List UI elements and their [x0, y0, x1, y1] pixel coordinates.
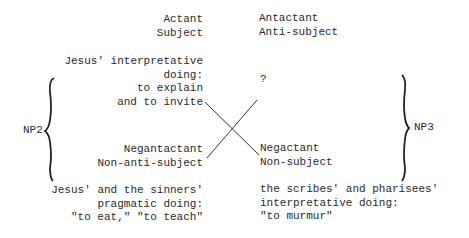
actant-label: Actant	[163, 13, 203, 27]
left-content-line: doing:	[163, 69, 203, 83]
left-bottom-line: Jesus' and the sinners'	[51, 184, 203, 198]
right-bottom-line: the scribes' and pharisees'	[260, 183, 438, 197]
anti-subject-label: Anti-subject	[259, 26, 338, 40]
left-content-line: to explain	[137, 82, 203, 96]
left-content-line: Jesus' interpretative	[64, 55, 203, 69]
right-bottom-line: "to murmur"	[260, 210, 333, 224]
np3-label: NP3	[414, 121, 434, 135]
antactant-label: Antactant	[259, 12, 318, 26]
left-bottom-line: "to eat," "to teach"	[71, 211, 203, 225]
subject-label: Subject	[157, 27, 203, 41]
right-brace-icon	[402, 75, 409, 181]
np2-label: NP2	[23, 124, 43, 138]
right-bottom-line: interpretative doing:	[260, 197, 399, 211]
left-bottom-line: pragmatic doing:	[97, 198, 203, 212]
question-mark: ?	[260, 73, 267, 87]
contradiction-line-2	[207, 100, 257, 158]
negantactant-label: Negantactant	[124, 143, 203, 157]
negactant-label: Negactant	[260, 142, 319, 156]
left-brace-icon	[45, 78, 54, 181]
left-content-line: and to invite	[117, 96, 203, 110]
diagram-lines	[0, 0, 469, 238]
non-anti-subject-label: Non-anti-subject	[97, 157, 203, 171]
non-subject-label: Non-subject	[260, 156, 333, 170]
